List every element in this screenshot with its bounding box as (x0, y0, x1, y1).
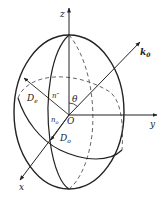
n-double-prime-label: n″ (52, 92, 60, 100)
De-label: De (26, 93, 38, 104)
index-ellipsoid-diagram: z y x O k0 θ De n″ no Do (0, 0, 167, 206)
origin-label: O (67, 116, 75, 126)
y-axis-label: y (149, 119, 156, 129)
k0-label: k0 (140, 47, 151, 58)
x-axis-label: x (19, 182, 24, 192)
tilted-section-front (18, 98, 122, 159)
no-label: no (51, 116, 59, 125)
Do-label: Do (59, 133, 71, 144)
theta-label: θ (72, 94, 78, 104)
z-axis-label: z (59, 9, 65, 19)
